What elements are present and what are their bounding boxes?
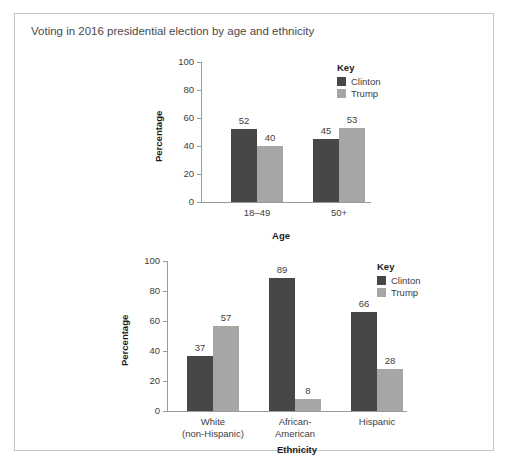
bar-value-label: 66 xyxy=(343,298,385,309)
legend-swatch-icon xyxy=(337,77,346,86)
bar-value-label: 40 xyxy=(249,132,291,143)
y-axis-tick-label: 40 xyxy=(161,140,194,151)
y-axis-tick-label: 100 xyxy=(127,255,160,266)
y-axis-tick xyxy=(197,62,201,63)
y-axis-tick xyxy=(197,118,201,119)
x-axis-line xyxy=(201,202,371,203)
bar-trump xyxy=(377,369,403,411)
legend-item-label: Trump xyxy=(391,287,418,298)
legend-swatch-icon xyxy=(377,288,386,297)
chart-legend: KeyClintonTrump xyxy=(337,62,381,100)
y-axis-tick-label: 60 xyxy=(127,315,160,326)
screenshot-root: Voting in 2016 presidential election by … xyxy=(0,0,508,464)
bar-clinton xyxy=(187,356,213,412)
x-axis-category-label: White(non-Hispanic) xyxy=(168,416,258,439)
y-axis-tick-label: 60 xyxy=(161,112,194,123)
legend-swatch-icon xyxy=(337,89,346,98)
bar-value-label: 89 xyxy=(261,264,303,275)
bar-value-label: 52 xyxy=(223,115,265,126)
y-axis-tick xyxy=(163,261,167,262)
y-axis-tick xyxy=(197,90,201,91)
y-axis-tick xyxy=(197,146,201,147)
x-axis-title: Ethnicity xyxy=(237,444,357,455)
legend-item-label: Clinton xyxy=(391,275,421,286)
x-axis-line xyxy=(167,411,407,412)
x-axis-category-label: African-American xyxy=(250,416,340,439)
bar-value-label: 28 xyxy=(369,355,411,366)
age-bar-chart: 020406080100Percentage524018–49455350+Ag… xyxy=(15,44,495,234)
legend-title: Key xyxy=(337,62,381,73)
y-axis-tick xyxy=(163,351,167,352)
x-axis-category-label: 50+ xyxy=(294,207,384,219)
legend-item-label: Trump xyxy=(351,88,378,99)
bar-trump xyxy=(339,128,365,202)
y-axis-tick xyxy=(197,202,201,203)
x-axis-category-label: Hispanic xyxy=(332,416,422,428)
y-axis-tick xyxy=(163,321,167,322)
y-axis-title: Percentage xyxy=(153,111,164,162)
figure-panel: Voting in 2016 presidential election by … xyxy=(14,13,494,451)
legend-item-trump: Trump xyxy=(337,88,381,99)
legend-item-label: Clinton xyxy=(351,76,381,87)
y-axis-line xyxy=(201,62,202,202)
bar-value-label: 8 xyxy=(287,385,329,396)
y-axis-tick xyxy=(163,381,167,382)
y-axis-tick-label: 20 xyxy=(127,375,160,386)
y-axis-tick xyxy=(163,291,167,292)
bar-value-label: 53 xyxy=(331,114,373,125)
legend-item-clinton: Clinton xyxy=(337,76,381,87)
bar-value-label: 57 xyxy=(205,312,247,323)
figure-title: Voting in 2016 presidential election by … xyxy=(31,25,314,37)
legend-swatch-icon xyxy=(377,276,386,285)
y-axis-line xyxy=(167,261,168,411)
ethnicity-bar-chart: 020406080100Percentage3757White(non-Hisp… xyxy=(15,239,495,449)
bar-clinton xyxy=(313,139,339,202)
y-axis-title: Percentage xyxy=(119,315,130,366)
y-axis-tick-label: 80 xyxy=(161,84,194,95)
legend-item-trump: Trump xyxy=(377,287,421,298)
y-axis-tick-label: 20 xyxy=(161,168,194,179)
y-axis-tick-label: 0 xyxy=(161,196,194,207)
y-axis-tick-label: 0 xyxy=(127,405,160,416)
legend-title: Key xyxy=(377,261,421,272)
y-axis-tick xyxy=(197,174,201,175)
x-axis-category-label: 18–49 xyxy=(212,207,302,219)
bar-trump xyxy=(213,326,239,412)
legend-item-clinton: Clinton xyxy=(377,275,421,286)
chart-legend: KeyClintonTrump xyxy=(377,261,421,299)
bar-trump xyxy=(257,146,283,202)
bar-trump xyxy=(295,399,321,411)
y-axis-tick-label: 80 xyxy=(127,285,160,296)
y-axis-tick-label: 100 xyxy=(161,56,194,67)
y-axis-tick-label: 40 xyxy=(127,345,160,356)
y-axis-tick xyxy=(163,411,167,412)
